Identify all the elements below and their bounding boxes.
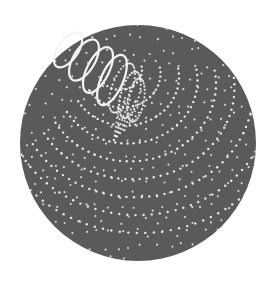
spiral-funnel-disc-image (0, 0, 276, 289)
figure (0, 0, 276, 289)
